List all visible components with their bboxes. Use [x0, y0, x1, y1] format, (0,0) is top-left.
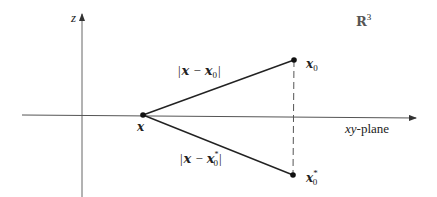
point-x0-label: x0 [305, 57, 318, 73]
point-x0star-sub: 0 [313, 177, 318, 187]
xy-plane-label: xy-plane [344, 121, 389, 136]
point-x0star [290, 172, 296, 178]
space-label-base: R [356, 14, 367, 29]
point-x0star-label: x*0 [305, 168, 318, 187]
dashed-reflection-line [293, 60, 294, 175]
distance-label-lower: |x−x*0| [180, 150, 222, 168]
point-x0-sub: 0 [313, 63, 318, 73]
reflection-diagram: z R3 x x0 x*0 |x−x0| |x−x*0| xy-plane [0, 0, 437, 197]
distance-label-upper: |x−x0| [178, 63, 221, 80]
point-x0 [291, 57, 297, 63]
space-label: R3 [356, 12, 372, 29]
xy-plane-axis [22, 115, 416, 118]
space-label-exp: 3 [367, 12, 372, 22]
point-x-label: x [136, 120, 145, 134]
point-x [140, 112, 146, 118]
segment-x-to-x0star [143, 115, 293, 175]
z-axis-label: z [70, 10, 76, 25]
